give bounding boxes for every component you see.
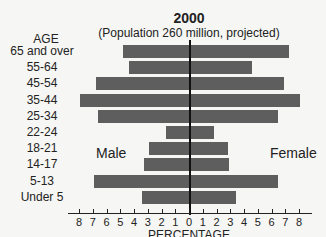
x-tick xyxy=(285,209,286,214)
x-tick-label: 4 xyxy=(238,216,250,228)
age-label: Under 5 xyxy=(6,190,78,204)
female-bar xyxy=(189,110,278,123)
x-tick xyxy=(120,209,121,214)
x-axis-label: PERCENTAGE xyxy=(0,228,326,237)
female-bar xyxy=(189,175,278,188)
male-bar xyxy=(94,175,189,188)
x-tick-label: 3 xyxy=(142,216,154,228)
x-tick-label: 0 xyxy=(183,216,195,228)
x-tick xyxy=(299,209,300,214)
female-bar xyxy=(189,191,236,204)
x-axis-line xyxy=(68,213,312,214)
male-bar xyxy=(98,110,189,123)
age-label: 55-64 xyxy=(6,60,78,74)
x-tick-label: 6 xyxy=(266,216,278,228)
male-bar xyxy=(80,94,189,107)
x-tick-label: 7 xyxy=(279,216,291,228)
x-tick-label: 1 xyxy=(197,216,209,228)
x-tick-label: 7 xyxy=(87,216,99,228)
male-bar xyxy=(96,77,190,90)
x-tick xyxy=(148,209,149,214)
x-tick xyxy=(79,209,80,214)
x-tick xyxy=(244,209,245,214)
x-tick xyxy=(203,209,204,214)
female-bar xyxy=(189,77,284,90)
age-label: 18-21 xyxy=(6,141,78,155)
x-tick xyxy=(272,209,273,214)
male-bar xyxy=(123,45,189,58)
x-tick xyxy=(230,209,231,214)
male-bar xyxy=(142,191,189,204)
x-tick xyxy=(93,209,94,214)
x-tick xyxy=(189,209,190,214)
male-bar xyxy=(149,142,189,155)
female-bar xyxy=(189,94,300,107)
x-tick xyxy=(175,209,176,214)
female-bar xyxy=(189,142,228,155)
x-tick-label: 8 xyxy=(73,216,85,228)
x-tick-label: 5 xyxy=(114,216,126,228)
male-label: Male xyxy=(96,145,126,161)
male-bar xyxy=(144,158,189,171)
x-tick-label: 6 xyxy=(101,216,113,228)
x-tick xyxy=(162,209,163,214)
x-tick-label: 2 xyxy=(156,216,168,228)
x-tick xyxy=(134,209,135,214)
age-label: 14-17 xyxy=(6,157,78,171)
female-label: Female xyxy=(270,145,317,161)
x-tick xyxy=(107,209,108,214)
female-bar xyxy=(189,61,252,74)
age-label: 25-34 xyxy=(6,109,78,123)
chart-title: 2000 xyxy=(0,10,326,26)
x-tick-label: 1 xyxy=(169,216,181,228)
center-axis-line xyxy=(189,40,191,215)
male-bar xyxy=(166,126,189,139)
x-tick-label: 5 xyxy=(252,216,264,228)
age-label: 65 and over xyxy=(6,44,78,58)
female-bar xyxy=(189,45,289,58)
x-tick xyxy=(258,209,259,214)
x-tick-label: 2 xyxy=(211,216,223,228)
male-bar xyxy=(129,61,190,74)
x-tick-label: 8 xyxy=(293,216,305,228)
age-label: 22-24 xyxy=(6,125,78,139)
female-bar xyxy=(189,158,229,171)
x-tick-label: 3 xyxy=(224,216,236,228)
x-tick-label: 4 xyxy=(128,216,140,228)
x-tick xyxy=(217,209,218,214)
age-label: 35-44 xyxy=(6,93,78,107)
age-label: 45-54 xyxy=(6,76,78,90)
age-label: 5-13 xyxy=(6,174,78,188)
female-bar xyxy=(189,126,214,139)
